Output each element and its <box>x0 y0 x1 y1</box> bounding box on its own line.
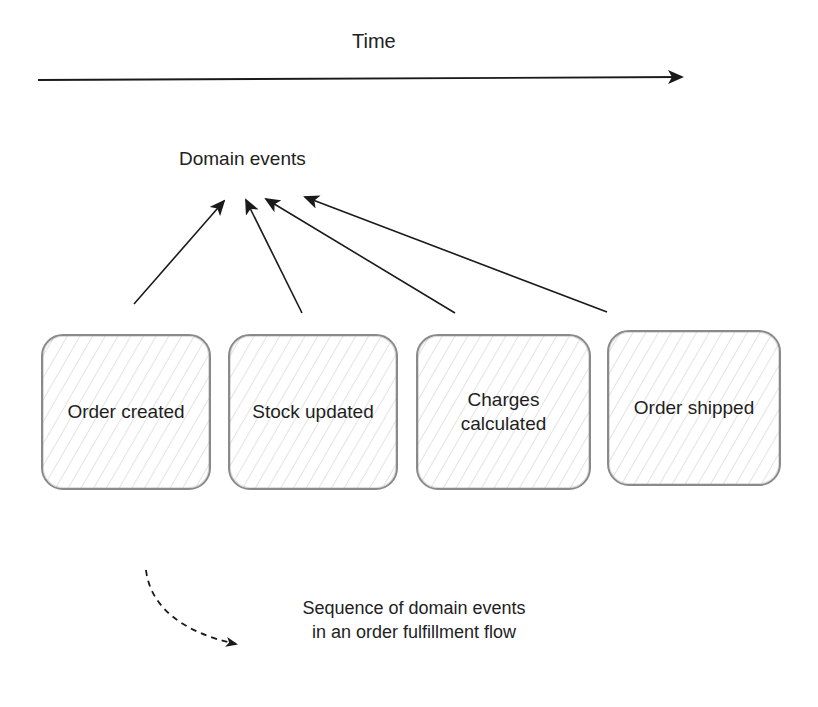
event-label: Order created <box>67 400 184 424</box>
event-box-stock-updated: Stock updated <box>228 334 398 490</box>
event-label: Order shipped <box>634 396 754 420</box>
domain-events-label: Domain events <box>179 148 306 170</box>
caption-line-1: Sequence of domain events <box>276 596 552 620</box>
event-box-order-shipped: Order shipped <box>607 330 781 486</box>
event-label-line-2: calculated <box>461 412 547 436</box>
time-label: Time <box>352 30 396 53</box>
arrow-order-created <box>134 201 224 304</box>
event-arrows <box>134 197 607 313</box>
event-label-line-1: Charges <box>461 388 547 412</box>
dashed-curve-arrow <box>146 570 236 644</box>
arrow-order-shipped <box>305 197 607 312</box>
event-box-order-created: Order created <box>41 334 211 490</box>
arrow-stock-updated <box>246 200 302 313</box>
time-arrow <box>38 77 682 80</box>
event-label: Stock updated <box>252 400 373 424</box>
caption-line-2: in an order fulfillment flow <box>276 620 552 644</box>
diagram-canvas: Time Domain events Order created Stock u… <box>0 0 818 707</box>
diagram-caption: Sequence of domain events in an order fu… <box>276 596 552 644</box>
event-box-charges-calculated: Charges calculated <box>416 334 591 490</box>
